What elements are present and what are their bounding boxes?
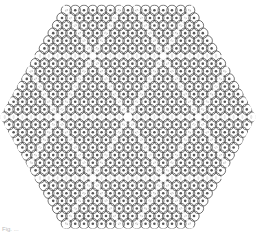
hexagonal-lattice-figure — [0, 0, 257, 234]
figure-caption: Fig. ... — [2, 226, 19, 232]
